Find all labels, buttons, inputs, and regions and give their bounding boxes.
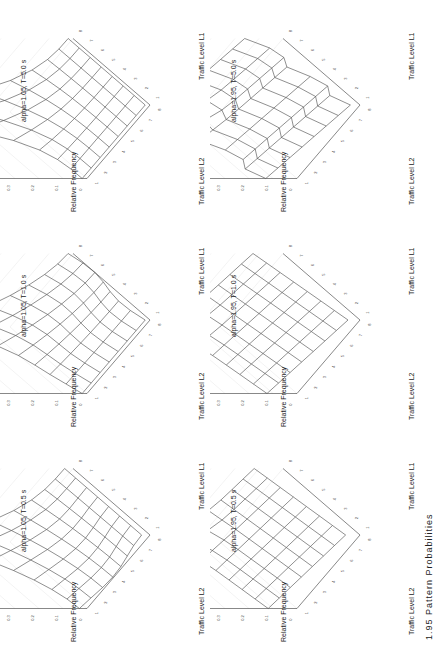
svg-text:1: 1: [365, 526, 370, 529]
l2-axis-label: Traffic Level L2: [198, 588, 205, 635]
surface-plot: 182736455463728100.10.20.30.40.5: [210, 0, 420, 215]
svg-text:4: 4: [122, 282, 127, 285]
z-axis-label: Relative Frequency: [280, 152, 287, 212]
figure-caption: 1.95 Pattern Probabilities: [424, 513, 434, 640]
svg-text:0.3: 0.3: [216, 614, 221, 620]
l1-axis-label: Traffic Level L1: [198, 463, 205, 510]
surface-plot: 182736455463728100.10.20.30.40.5: [210, 430, 420, 645]
svg-text:0.2: 0.2: [30, 399, 35, 405]
svg-text:2: 2: [144, 301, 149, 304]
svg-text:0.3: 0.3: [6, 614, 11, 620]
svg-text:2: 2: [354, 516, 359, 519]
surface-plot: 182736455463728100.10.20.30.40.5: [0, 215, 210, 430]
svg-text:8: 8: [367, 108, 372, 111]
svg-text:0.3: 0.3: [6, 399, 11, 405]
svg-text:1: 1: [304, 396, 309, 399]
svg-text:7: 7: [89, 39, 94, 42]
svg-text:8: 8: [78, 29, 83, 32]
svg-text:4: 4: [332, 282, 337, 285]
svg-text:8: 8: [367, 538, 372, 541]
svg-text:5: 5: [111, 273, 116, 276]
svg-text:4: 4: [331, 150, 336, 153]
z-axis-label: Relative Frequency: [70, 582, 77, 642]
panel-title: alpha=1.05, T=5.0 s: [20, 60, 27, 122]
svg-text:0.3: 0.3: [216, 184, 221, 190]
panel-title: alpha=1.95, T=1.0 s: [230, 275, 237, 337]
svg-text:7: 7: [358, 333, 363, 336]
z-axis-label: Relative Frequency: [70, 152, 77, 212]
svg-text:5: 5: [111, 488, 116, 491]
svg-text:0.3: 0.3: [216, 399, 221, 405]
svg-text:6: 6: [100, 478, 105, 481]
svg-text:6: 6: [349, 344, 354, 347]
svg-text:3: 3: [112, 375, 117, 378]
svg-text:7: 7: [358, 118, 363, 121]
svg-text:2: 2: [103, 601, 108, 604]
svg-text:4: 4: [332, 497, 337, 500]
svg-text:0.2: 0.2: [30, 184, 35, 190]
l2-axis-label: Traffic Level L2: [198, 373, 205, 420]
svg-text:1: 1: [304, 181, 309, 184]
svg-text:3: 3: [112, 160, 117, 163]
svg-text:3: 3: [322, 590, 327, 593]
svg-text:7: 7: [148, 548, 153, 551]
svg-text:5: 5: [321, 488, 326, 491]
svg-text:0: 0: [288, 618, 293, 621]
svg-text:8: 8: [367, 323, 372, 326]
svg-text:8: 8: [78, 459, 83, 462]
l1-axis-label: Traffic Level L1: [408, 463, 415, 510]
panel-alpha195-t05: 182736455463728100.10.20.30.40.5alpha=1.…: [210, 430, 420, 645]
svg-text:0.1: 0.1: [264, 614, 269, 620]
svg-text:6: 6: [100, 263, 105, 266]
z-axis-label: Relative Frequency: [280, 582, 287, 642]
panel-alpha105-t50: 182736455463728100.10.20.30.40.5alpha=1.…: [0, 0, 210, 215]
svg-text:2: 2: [354, 86, 359, 89]
svg-text:0.2: 0.2: [30, 614, 35, 620]
svg-text:1: 1: [155, 96, 160, 99]
svg-text:8: 8: [288, 29, 293, 32]
svg-text:5: 5: [130, 354, 135, 357]
svg-text:2: 2: [354, 301, 359, 304]
panel-alpha105-t05: 182736455463728100.10.20.30.40.5alpha=1.…: [0, 430, 210, 645]
panel-alpha195-t10: 182736455463728100.10.20.30.40.5alpha=1.…: [210, 215, 420, 430]
l2-axis-label: Traffic Level L2: [408, 373, 415, 420]
l2-axis-label: Traffic Level L2: [408, 158, 415, 205]
svg-text:1: 1: [155, 526, 160, 529]
l2-axis-label: Traffic Level L2: [198, 158, 205, 205]
svg-text:7: 7: [148, 333, 153, 336]
svg-text:7: 7: [299, 469, 304, 472]
svg-text:3: 3: [322, 160, 327, 163]
svg-text:2: 2: [313, 601, 318, 604]
l1-axis-label: Traffic Level L1: [198, 248, 205, 295]
svg-text:1: 1: [94, 396, 99, 399]
svg-text:2: 2: [144, 86, 149, 89]
svg-text:0.2: 0.2: [240, 184, 245, 190]
svg-text:4: 4: [122, 497, 127, 500]
svg-text:0: 0: [288, 188, 293, 191]
svg-text:2: 2: [103, 386, 108, 389]
svg-text:3: 3: [343, 77, 348, 80]
svg-text:1: 1: [365, 311, 370, 314]
svg-text:4: 4: [121, 150, 126, 153]
svg-text:6: 6: [349, 559, 354, 562]
svg-text:2: 2: [144, 516, 149, 519]
svg-text:4: 4: [121, 365, 126, 368]
svg-text:7: 7: [89, 254, 94, 257]
svg-text:2: 2: [313, 171, 318, 174]
svg-text:6: 6: [310, 48, 315, 51]
svg-text:3: 3: [133, 292, 138, 295]
svg-text:5: 5: [130, 569, 135, 572]
l2-axis-label: Traffic Level L2: [408, 588, 415, 635]
z-axis-label: Relative Frequency: [280, 367, 287, 427]
panel-title: alpha=1.05, T=0.5 s: [20, 490, 27, 552]
svg-text:0: 0: [78, 618, 83, 621]
svg-text:4: 4: [331, 580, 336, 583]
svg-text:0.2: 0.2: [240, 614, 245, 620]
svg-text:0.2: 0.2: [240, 399, 245, 405]
svg-text:5: 5: [340, 139, 345, 142]
svg-text:3: 3: [322, 375, 327, 378]
svg-text:7: 7: [299, 254, 304, 257]
svg-text:8: 8: [288, 459, 293, 462]
svg-text:6: 6: [139, 129, 144, 132]
panel-title: alpha=1.95, T=0.5 s: [230, 490, 237, 552]
